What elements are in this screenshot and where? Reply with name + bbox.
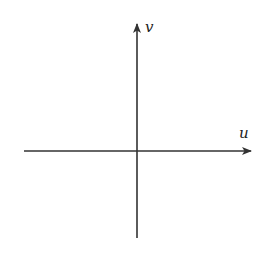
u-axis-label: u xyxy=(239,124,249,142)
uv-axes-diagram: u v xyxy=(0,0,265,271)
v-axis-label: v xyxy=(145,18,154,36)
